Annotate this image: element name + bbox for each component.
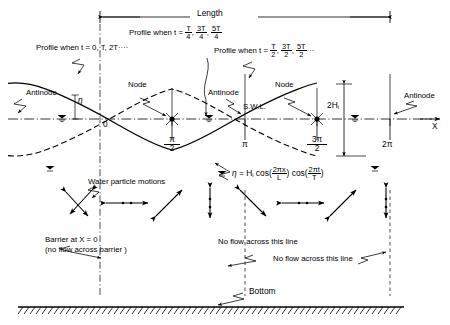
- wave-height-label: 2Hi: [327, 101, 339, 111]
- profile-dashed-suffix: ···: [307, 46, 315, 55]
- particle-arrow-4: [156, 190, 182, 216]
- origin-label: 0: [103, 120, 108, 129]
- equation-cos1: cos: [256, 168, 269, 178]
- fraction-5T-4: 5T 4: [211, 25, 222, 41]
- barrier-label-line1: Barrier at X = 0: [45, 236, 98, 244]
- water-particle-motions-label: Water particle motions: [88, 178, 165, 186]
- sea-bed: [18, 307, 404, 314]
- eta-label: η: [78, 96, 83, 105]
- particle-arrow-1: [66, 192, 88, 216]
- fraction-3T-4: 3T 4: [196, 25, 207, 41]
- fraction-2pix-L: 2πx L: [272, 166, 287, 182]
- barrier-label-line2: (no flow across barrier ): [45, 246, 127, 254]
- particle-arrow-9: [385, 188, 388, 218]
- x-tick-2pi: 2π: [382, 140, 392, 149]
- x-axis-label: X: [432, 122, 438, 131]
- profile-node-label: Profile when t = T 4 , 3T 4 , 5T 4: [129, 25, 222, 41]
- profile-dashed-prefix: Profile when t =: [214, 46, 268, 55]
- fraction-3T-2: 3T 2: [281, 43, 292, 59]
- x-tick-3pi-over-2: 3π 2: [307, 136, 327, 153]
- bottom-label: Bottom: [249, 287, 276, 296]
- equation-amplitude-sub: i: [252, 172, 253, 178]
- profile-solid-text: Profile when t = 0, T, 2T: [36, 43, 118, 52]
- profile-node-prefix: Profile when t =: [129, 28, 183, 37]
- length-label: Length: [197, 9, 223, 18]
- fraction-5T-2: 5T 2: [296, 43, 307, 59]
- fraction-T-2: T 2: [270, 43, 277, 59]
- x-tick-pi: π: [242, 140, 248, 149]
- particle-arrow-7: [282, 202, 324, 205]
- particle-arrow-5: [209, 188, 212, 218]
- swl-label: S.W.L.: [243, 103, 266, 111]
- particle-arrow-2: [70, 190, 92, 214]
- particle-arrow-8: [330, 190, 356, 216]
- node-label-right: Node: [275, 81, 294, 89]
- equation-lhs: η: [232, 168, 237, 178]
- antinode-label-right: Antinode: [404, 92, 435, 100]
- equation-equals: =: [239, 168, 244, 178]
- profile-solid-label: Profile when t = 0, T, 2T····: [36, 44, 128, 52]
- antinode-label-left: Antinode: [26, 89, 57, 97]
- antinode-label-mid: Antinode: [208, 89, 239, 97]
- node-label-left: Node: [128, 81, 147, 89]
- fraction-2pit-T: 2πt T: [308, 166, 321, 182]
- water-surface-symbols: [46, 115, 380, 176]
- no-flow-label-1: No flow across this line: [218, 238, 298, 246]
- particle-arrow-6: [240, 190, 266, 216]
- particle-arrow-3: [106, 202, 148, 205]
- length-dimension: [100, 11, 390, 23]
- wave-height-dimension: [336, 84, 366, 156]
- x-tick-pi-over-2: π 2: [164, 136, 180, 153]
- profile-solid-suffix: ····: [118, 43, 128, 52]
- figure-canvas: Length Profile when t = 0, T, 2T···· Pro…: [0, 0, 450, 325]
- profile-dashed-label: Profile when t = T 2 , 3T 2 , 5T 2 ···: [214, 43, 314, 59]
- equation-cos2: cos: [292, 168, 305, 178]
- particle-motion-arrows: [66, 188, 387, 218]
- wave-equation: η = Hi cos( 2πx L ) cos( 2πt T ): [232, 166, 324, 182]
- fraction-T-4: T 4: [185, 25, 192, 41]
- no-flow-label-2: No flow across this line: [273, 255, 353, 263]
